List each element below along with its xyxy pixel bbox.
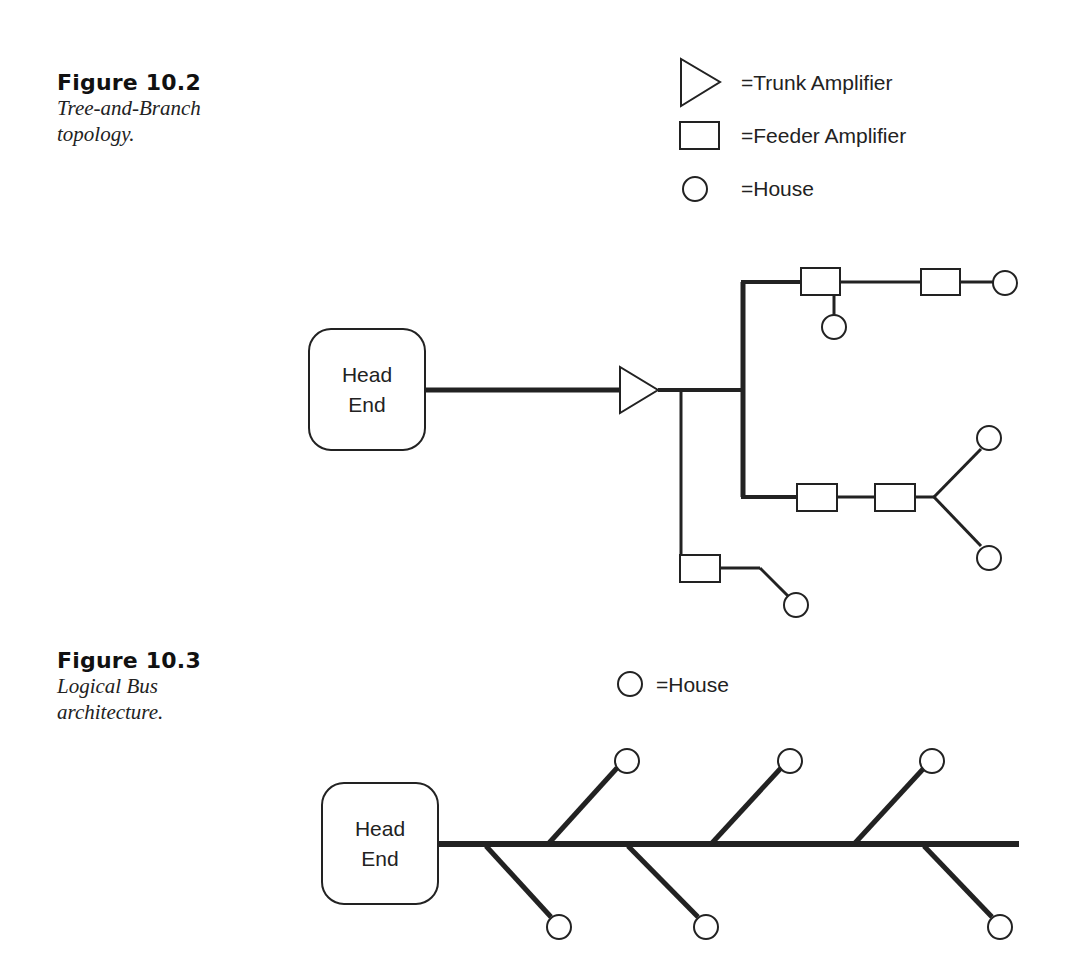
legend-label-feeder-amplifier: =Feeder Amplifier bbox=[741, 124, 906, 147]
house-icon bbox=[822, 315, 846, 339]
drop-line bbox=[486, 846, 551, 917]
triangle-icon bbox=[681, 59, 720, 106]
feeder-amplifier-icon bbox=[875, 484, 915, 511]
head-end-label: End bbox=[361, 847, 398, 870]
circle-icon bbox=[618, 672, 642, 696]
drop-line bbox=[760, 568, 788, 596]
house-icon bbox=[778, 749, 802, 773]
house-icon bbox=[547, 915, 571, 939]
head-end-box bbox=[322, 783, 438, 904]
trunk-amplifier-icon bbox=[620, 367, 658, 413]
feeder-amplifier-icon bbox=[801, 268, 840, 295]
logical-bus-diagram bbox=[322, 749, 1019, 939]
drop-line bbox=[549, 768, 617, 843]
legend-label-house: =House bbox=[741, 177, 814, 200]
legend-figure-10-2 bbox=[680, 59, 720, 201]
house-icon bbox=[988, 915, 1012, 939]
head-end-box bbox=[309, 329, 425, 450]
rectangle-icon bbox=[680, 122, 719, 149]
house-icon bbox=[920, 749, 944, 773]
feeder-amplifier-icon bbox=[797, 484, 837, 511]
house-icon bbox=[615, 749, 639, 773]
legend-label-house: =House bbox=[656, 673, 729, 696]
drop-line bbox=[934, 497, 981, 546]
house-icon bbox=[977, 426, 1001, 450]
head-end-label: End bbox=[348, 393, 385, 416]
drop-line bbox=[628, 846, 698, 917]
feeder-amplifier-icon bbox=[680, 555, 720, 582]
house-icon bbox=[977, 546, 1001, 570]
house-icon bbox=[993, 271, 1017, 295]
head-end-label: Head bbox=[342, 363, 392, 386]
drop-line bbox=[924, 846, 992, 917]
legend-label-trunk-amplifier: =Trunk Amplifier bbox=[741, 71, 893, 94]
drop-line bbox=[934, 449, 981, 497]
circle-icon bbox=[683, 177, 707, 201]
house-icon bbox=[694, 915, 718, 939]
diagram-canvas: =Trunk Amplifier =Feeder Amplifier =Hous… bbox=[0, 0, 1075, 980]
tree-and-branch-diagram bbox=[309, 268, 1017, 617]
legend-figure-10-3 bbox=[618, 672, 642, 696]
drop-line bbox=[855, 768, 924, 843]
feeder-amplifier-icon bbox=[921, 269, 960, 295]
drop-line bbox=[712, 768, 781, 843]
house-icon bbox=[784, 593, 808, 617]
head-end-label: Head bbox=[355, 817, 405, 840]
